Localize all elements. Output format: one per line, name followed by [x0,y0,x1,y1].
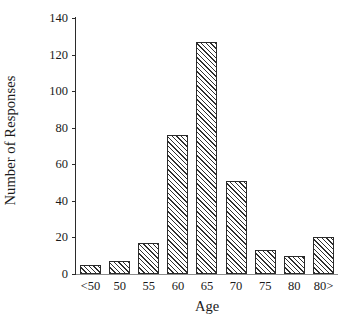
bar-slot [309,18,338,274]
y-tick-label: 120 [49,48,68,61]
x-tick-label: 55 [134,277,163,296]
bar [196,42,217,274]
bar [284,256,305,274]
bar-slot [76,18,105,274]
x-tick-label: 60 [163,277,192,296]
bar-slot [163,18,192,274]
y-tick-label: 80 [56,121,69,134]
x-tick-label: <50 [76,277,105,296]
y-tick-label: 40 [56,195,69,208]
bar [109,261,130,274]
bar-slot [280,18,309,274]
bar [138,243,159,274]
y-axis-title-text: Number of Responses [3,75,20,205]
y-tick-label: 20 [56,231,69,244]
x-tick-label: 75 [251,277,280,296]
y-tick-label: 100 [49,85,68,98]
y-tick-label: 140 [49,12,68,25]
bar-slot [251,18,280,274]
x-axis-line [76,274,338,275]
bar-slot [134,18,163,274]
bar [80,265,101,274]
x-axis-title: Age [76,298,338,315]
y-tick-label: 60 [56,158,69,171]
bar-chart: Number of Responses 020406080100120140 <… [0,0,349,329]
x-tick-label: 80> [309,277,338,296]
x-tick-label: 70 [222,277,251,296]
bar [167,135,188,274]
bar-slot [222,18,251,274]
bar-slot [105,18,134,274]
bar [255,250,276,274]
y-axis-ticks: 020406080100120140 [26,0,72,329]
x-tick-label: 80 [280,277,309,296]
x-axis-ticks: <505055606570758080> [76,277,338,297]
bar-slot [192,18,221,274]
bar [226,181,247,274]
x-tick-label: 65 [192,277,221,296]
x-tick-label: 50 [105,277,134,296]
plot-area [76,18,338,274]
y-axis-title: Number of Responses [0,0,22,280]
bar [313,237,334,274]
bar-series [76,18,338,274]
y-tick-label: 0 [62,268,68,281]
